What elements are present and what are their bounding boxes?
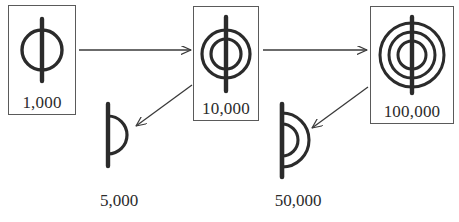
numeral-diagram: 1,000 10,000 100,000 5	[0, 0, 459, 222]
numeral-label-10000: 10,000	[194, 100, 258, 120]
numeral-half-50000	[274, 101, 316, 181]
bar-with-1-semicircle-icon	[100, 100, 134, 170]
numeral-box-100000: 100,000	[370, 6, 454, 124]
bar-with-1-circle-icon	[14, 11, 70, 89]
bar-with-3-circles-icon	[375, 12, 449, 98]
bar-with-2-semicircles-icon	[274, 101, 316, 181]
numeral-label-1000: 1,000	[9, 94, 75, 114]
glyph-bar-with-2-circles-container	[194, 7, 258, 100]
numeral-label-50000: 50,000	[256, 192, 340, 209]
glyph-bar-with-1-circle-container	[9, 6, 75, 94]
numeral-half-5000	[100, 100, 134, 170]
bar-with-2-circles-icon	[197, 12, 255, 96]
arrow-10000-to-5000	[136, 85, 192, 126]
numeral-label-5000: 5,000	[84, 192, 154, 209]
numeral-label-100000: 100,000	[371, 103, 453, 123]
numeral-box-10000: 10,000	[193, 6, 259, 121]
numeral-box-1000: 1,000	[8, 5, 76, 115]
arrow-100000-to-50000	[312, 87, 368, 128]
glyph-bar-with-3-circles-container	[371, 7, 453, 103]
